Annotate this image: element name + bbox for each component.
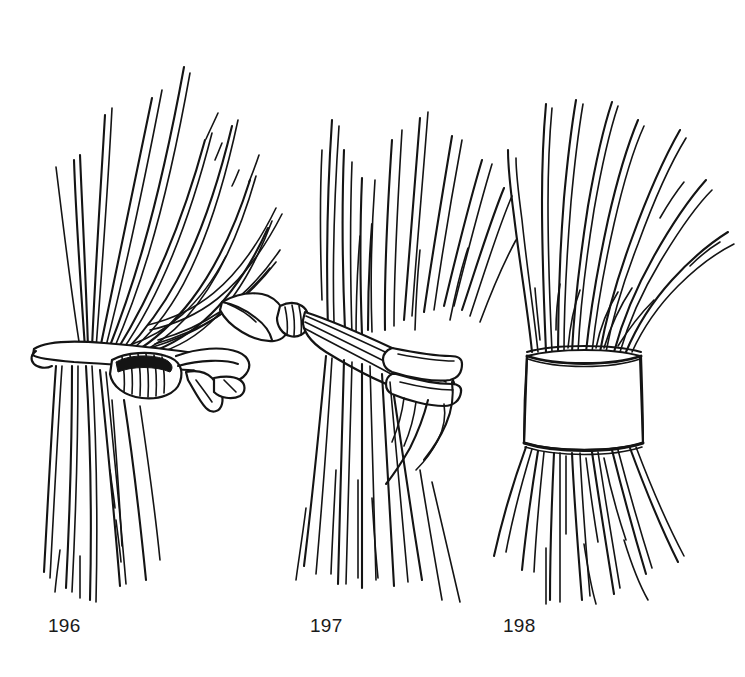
figure-caption-197: 197: [310, 616, 343, 635]
figure-caption-196: 196: [48, 616, 81, 635]
figure-caption-198: 198: [503, 616, 536, 635]
illustration-page: 196 197 198: [0, 0, 745, 677]
figure-198-band-cuff: [524, 346, 643, 455]
figures-canvas: [0, 0, 745, 677]
